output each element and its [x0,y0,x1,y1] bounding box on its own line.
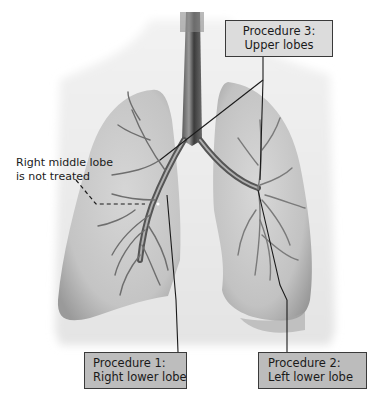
lung-illustration [0,0,374,404]
procedure1-label: Procedure 1: Right lower lobe [84,352,187,389]
procedure2-target: Left lower lobe [268,370,366,384]
middle-lobe-note-line1: Right middle lobe [16,156,113,170]
procedure1-target: Right lower lobe [93,370,186,384]
procedure3-target: Upper lobes [226,38,332,52]
procedure2-title: Procedure 2: [268,356,366,370]
procedure1-title: Procedure 1: [93,356,186,370]
procedure2-label: Procedure 2: Left lower lobe [258,352,367,389]
middle-lobe-note: Right middle lobe is not treated [16,156,113,184]
procedure3-title: Procedure 3: [226,24,332,38]
lung-diagram: Procedure 3: Upper lobes Right middle lo… [0,0,374,404]
procedure3-label: Procedure 3: Upper lobes [225,20,333,57]
middle-lobe-note-line2: is not treated [16,170,113,184]
